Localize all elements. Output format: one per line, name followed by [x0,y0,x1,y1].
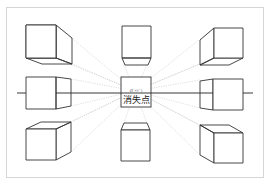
vanishing-point-sublabel: (ｶﾞｲﾄﾞ) [130,88,143,93]
vanishing-point-label: 消失点 [123,94,150,105]
vanishing-point: (ｶﾞｲﾄﾞ) 消失点 [121,77,151,107]
perspective-diagram: (ｶﾞｲﾄﾞ) 消失点 [0,0,270,187]
